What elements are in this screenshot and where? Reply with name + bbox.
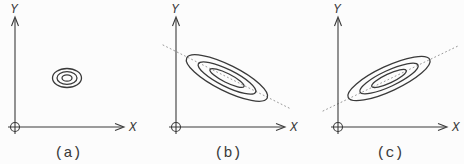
contour-ellipses	[343, 48, 435, 109]
trend-dotted-line	[163, 45, 291, 109]
contour-ellipse	[181, 46, 273, 109]
x-axis-label: X	[451, 121, 460, 135]
contour-ellipse	[57, 72, 77, 85]
contour-ellipse	[195, 56, 260, 100]
trend-dotted-line	[323, 46, 458, 111]
panel-caption: (c)	[376, 145, 403, 162]
contour-ellipse	[343, 48, 435, 109]
x-axis-label: X	[289, 121, 298, 135]
contour-ellipses	[53, 69, 82, 88]
correlation-contours-figure: Y X (a) Y X (b) Y X (c)	[0, 0, 464, 164]
panel-b: Y X (b)	[163, 3, 298, 162]
x-axis-label: X	[128, 121, 137, 135]
y-axis-label: Y	[10, 3, 19, 17]
contour-ellipse	[62, 75, 72, 81]
panel-c: Y X (c)	[323, 3, 460, 162]
contour-ellipses	[181, 46, 273, 109]
panel-caption: (a)	[54, 145, 81, 162]
figure-canvas: Y X (a) Y X (b) Y X (c)	[0, 0, 464, 164]
panel-caption: (b)	[214, 145, 241, 162]
y-axis-label: Y	[171, 3, 180, 17]
y-axis-label: Y	[333, 3, 342, 17]
contour-ellipse	[357, 58, 422, 100]
panel-a: Y X (a)	[8, 3, 137, 162]
